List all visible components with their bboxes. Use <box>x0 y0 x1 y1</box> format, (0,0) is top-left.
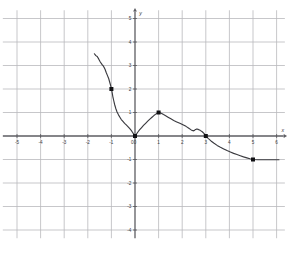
data-point-marker <box>157 111 161 115</box>
data-point-marker <box>204 134 208 138</box>
x-tick-label: -4 <box>39 140 44 145</box>
graph-screenshot: -5-4-3-2-10123456-4-3-2-1123450 xy <box>0 0 308 255</box>
x-axis-arrow-icon <box>284 134 287 138</box>
y-tick-label: 2 <box>129 87 132 92</box>
data-point-marker <box>109 87 113 91</box>
y-tick-label: -3 <box>127 204 132 209</box>
y-tick-label: -4 <box>127 228 132 233</box>
x-tick-label: -3 <box>62 140 67 145</box>
x-axis-name: x <box>280 127 284 133</box>
y-tick-label: 5 <box>129 16 132 21</box>
x-tick-label: 4 <box>228 140 231 145</box>
y-axis-arrow-icon <box>133 8 137 11</box>
x-tick-label: -2 <box>86 140 91 145</box>
x-tick-label: 5 <box>252 140 255 145</box>
grid-lines <box>3 10 285 238</box>
y-tick-label: 4 <box>129 40 132 45</box>
data-point-marker <box>133 134 137 138</box>
x-tick-label: -5 <box>15 140 20 145</box>
origin-label: 0 <box>131 140 134 145</box>
y-tick-label: -2 <box>127 181 132 186</box>
y-tick-label: 3 <box>129 63 132 68</box>
x-tick-label: -1 <box>109 140 114 145</box>
x-tick-label: 2 <box>181 140 184 145</box>
data-point-marker <box>251 158 255 162</box>
x-tick-label: 6 <box>275 140 278 145</box>
y-tick-label: -1 <box>127 157 132 162</box>
tick-labels: -5-4-3-2-10123456-4-3-2-1123450 <box>15 16 278 233</box>
y-axis-name: y <box>138 10 142 16</box>
x-tick-label: 0 <box>134 140 137 145</box>
x-tick-label: 3 <box>205 140 208 145</box>
axes <box>3 8 287 238</box>
y-tick-label: 1 <box>129 110 132 115</box>
coordinate-plot: -5-4-3-2-10123456-4-3-2-1123450 xy <box>0 0 308 255</box>
x-tick-label: 1 <box>157 140 160 145</box>
tick-marks <box>17 19 277 231</box>
